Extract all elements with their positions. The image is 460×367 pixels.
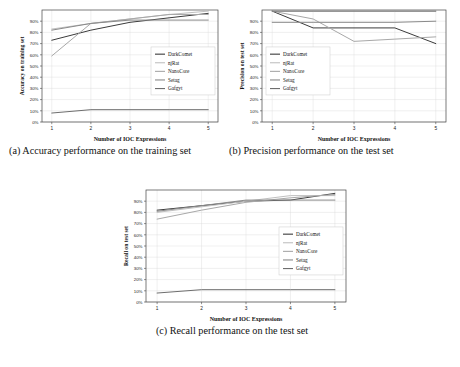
- svg-text:20%: 20%: [250, 97, 259, 102]
- svg-text:DarkComet: DarkComet: [296, 231, 321, 237]
- svg-text:Number of IOC Expressions: Number of IOC Expressions: [318, 136, 391, 142]
- svg-text:80%: 80%: [134, 210, 143, 215]
- svg-text:10%: 10%: [30, 109, 39, 114]
- svg-text:80%: 80%: [30, 30, 39, 35]
- svg-text:Precision on test set: Precision on test set: [239, 42, 245, 89]
- caption-a: (a) Accuracy performance on the training…: [8, 145, 224, 157]
- svg-text:0%: 0%: [252, 120, 258, 125]
- svg-text:20%: 20%: [30, 97, 39, 102]
- svg-text:50%: 50%: [250, 64, 259, 69]
- svg-text:1: 1: [156, 306, 159, 311]
- svg-text:30%: 30%: [30, 86, 39, 91]
- svg-text:NanoCore: NanoCore: [283, 68, 305, 74]
- svg-text:3: 3: [245, 306, 248, 311]
- accuracy-training-chart: 0%10%20%30%40%50%60%70%80%90%12345Number…: [8, 4, 224, 144]
- svg-text:2: 2: [200, 306, 203, 311]
- svg-text:30%: 30%: [250, 86, 259, 91]
- svg-text:njRat: njRat: [296, 240, 308, 246]
- svg-text:80%: 80%: [250, 30, 259, 35]
- svg-text:3: 3: [129, 126, 132, 131]
- svg-text:Accuracy on training set: Accuracy on training set: [19, 37, 25, 96]
- plot-area-c: 0%10%20%30%40%50%60%70%80%90%12345Number…: [112, 184, 352, 324]
- plot-area-b: 0%10%20%30%40%50%60%70%80%90%12345Number…: [228, 4, 452, 144]
- svg-text:2: 2: [90, 126, 93, 131]
- svg-text:50%: 50%: [134, 244, 143, 249]
- svg-text:Setag: Setag: [296, 257, 308, 263]
- svg-text:90%: 90%: [134, 199, 143, 204]
- svg-text:3: 3: [353, 126, 356, 131]
- svg-text:90%: 90%: [30, 19, 39, 24]
- chart-panel-a: 0%10%20%30%40%50%60%70%80%90%12345Number…: [8, 4, 224, 180]
- svg-text:Setag: Setag: [168, 77, 180, 83]
- svg-text:Setag: Setag: [283, 77, 295, 83]
- svg-text:5: 5: [334, 306, 337, 311]
- svg-text:Number of IOC Expressions: Number of IOC Expressions: [94, 136, 167, 142]
- svg-text:70%: 70%: [30, 41, 39, 46]
- svg-text:10%: 10%: [134, 289, 143, 294]
- chart-panel-b: 0%10%20%30%40%50%60%70%80%90%12345Number…: [228, 4, 452, 180]
- svg-text:0%: 0%: [32, 120, 38, 125]
- svg-text:4: 4: [289, 306, 292, 311]
- svg-text:Gafgyt: Gafgyt: [296, 265, 311, 271]
- svg-text:20%: 20%: [134, 277, 143, 282]
- svg-text:NanoCore: NanoCore: [296, 248, 318, 254]
- svg-text:70%: 70%: [134, 221, 143, 226]
- plot-area-a: 0%10%20%30%40%50%60%70%80%90%12345Number…: [8, 4, 224, 144]
- svg-text:1: 1: [271, 126, 274, 131]
- svg-text:NanoCore: NanoCore: [168, 68, 190, 74]
- svg-text:Gafgyt: Gafgyt: [168, 85, 183, 91]
- svg-text:5: 5: [207, 126, 210, 131]
- svg-text:2: 2: [312, 126, 315, 131]
- svg-text:60%: 60%: [134, 233, 143, 238]
- svg-text:njRat: njRat: [168, 60, 180, 66]
- svg-text:50%: 50%: [30, 64, 39, 69]
- svg-text:70%: 70%: [250, 41, 259, 46]
- svg-text:0%: 0%: [136, 300, 142, 305]
- svg-text:40%: 40%: [30, 75, 39, 80]
- svg-text:30%: 30%: [134, 266, 143, 271]
- svg-text:60%: 60%: [30, 53, 39, 58]
- svg-text:60%: 60%: [250, 53, 259, 58]
- svg-text:Number of IOC Expressions: Number of IOC Expressions: [210, 316, 283, 322]
- svg-text:1: 1: [50, 126, 53, 131]
- svg-text:90%: 90%: [250, 19, 259, 24]
- caption-c: (c) Recall performance on the test set: [112, 325, 352, 337]
- svg-text:5: 5: [434, 126, 437, 131]
- figure-container: 0%10%20%30%40%50%60%70%80%90%12345Number…: [0, 0, 460, 367]
- svg-text:DarkComet: DarkComet: [283, 51, 308, 57]
- svg-text:10%: 10%: [250, 109, 259, 114]
- recall-test-chart: 0%10%20%30%40%50%60%70%80%90%12345Number…: [112, 184, 352, 324]
- svg-text:Recall on test set: Recall on test set: [123, 226, 129, 266]
- svg-text:4: 4: [168, 126, 171, 131]
- svg-text:40%: 40%: [250, 75, 259, 80]
- svg-text:4: 4: [394, 126, 397, 131]
- svg-text:njRat: njRat: [283, 60, 295, 66]
- caption-b: (b) Precision performance on the test se…: [228, 145, 452, 157]
- svg-text:40%: 40%: [134, 255, 143, 260]
- svg-text:Gafgyt: Gafgyt: [283, 85, 298, 91]
- svg-text:DarkComet: DarkComet: [168, 51, 193, 57]
- precision-test-chart: 0%10%20%30%40%50%60%70%80%90%12345Number…: [228, 4, 452, 144]
- chart-panel-c: 0%10%20%30%40%50%60%70%80%90%12345Number…: [112, 184, 352, 364]
